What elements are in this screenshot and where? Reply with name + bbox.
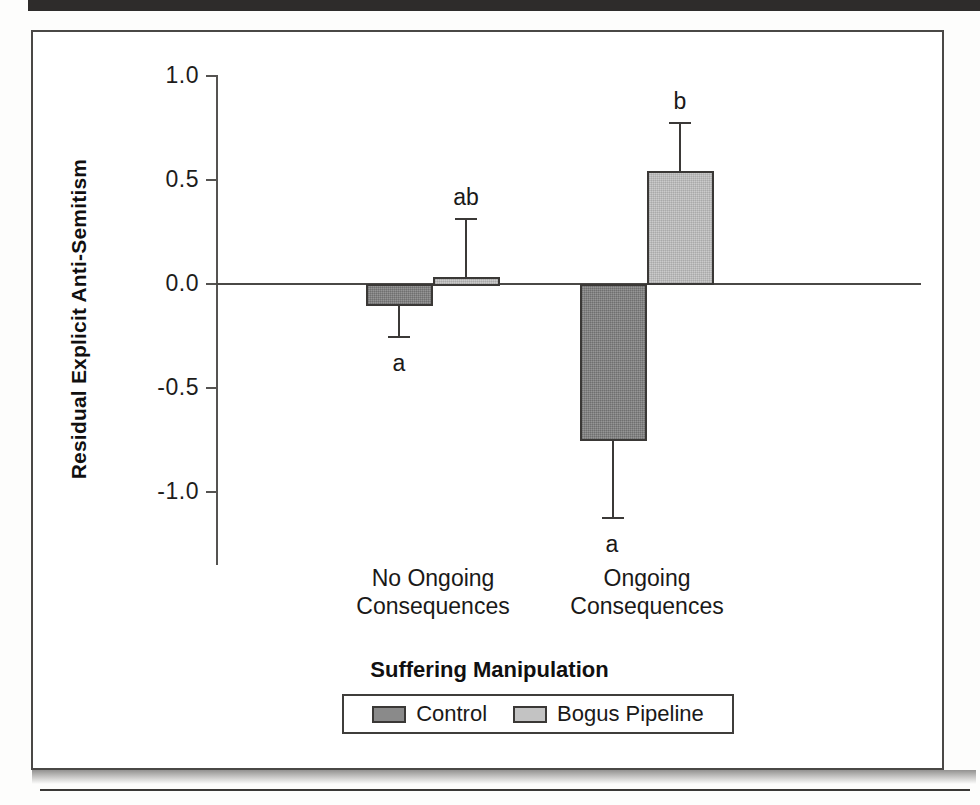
sig-letter-control-no-ongoing: a bbox=[369, 350, 429, 377]
y-tick-label-3: 0.0 bbox=[125, 270, 199, 297]
x-axis-title: Suffering Manipulation bbox=[33, 657, 946, 683]
legend: Control Bogus Pipeline bbox=[342, 694, 734, 734]
legend-entry-bogus-pipeline: Bogus Pipeline bbox=[513, 701, 704, 727]
bar-bogus-no-ongoing bbox=[433, 277, 500, 286]
errorbar-cap-control-no-ongoing bbox=[388, 336, 410, 338]
legend-swatch-control bbox=[372, 706, 406, 723]
legend-label-control: Control bbox=[416, 701, 487, 727]
errorbar-stem-control-no-ongoing bbox=[398, 306, 400, 337]
y-tick-label-4: -0.5 bbox=[125, 374, 199, 401]
scan-band-top bbox=[28, 0, 980, 11]
figure-page: 1.0 0.5 0.0 -0.5 -1.0 Residual Explicit … bbox=[0, 0, 980, 805]
zero-baseline bbox=[216, 283, 921, 285]
errorbar-stem-control-ongoing bbox=[612, 441, 614, 518]
errorbar-cap-bogus-ongoing bbox=[669, 122, 691, 124]
y-tick-label-1: 1.0 bbox=[125, 62, 199, 89]
bar-bogus-ongoing bbox=[647, 171, 714, 285]
y-tick-label-2: 0.5 bbox=[125, 166, 199, 193]
legend-entry-control: Control bbox=[372, 701, 487, 727]
group-label-ongoing: Ongoing Consequences bbox=[507, 565, 787, 620]
group-label-ongoing-line1: Ongoing bbox=[507, 565, 787, 593]
legend-swatch-bogus-pipeline bbox=[513, 706, 547, 723]
plot-area: 1.0 0.5 0.0 -0.5 -1.0 Residual Explicit … bbox=[33, 32, 946, 772]
y-tick-1 bbox=[206, 75, 217, 77]
bar-control-no-ongoing bbox=[366, 284, 433, 306]
errorbar-stem-bogus-ongoing bbox=[679, 123, 681, 172]
errorbar-stem-bogus-no-ongoing bbox=[465, 219, 467, 278]
group-label-ongoing-line2: Consequences bbox=[507, 593, 787, 621]
y-tick-4 bbox=[206, 387, 217, 389]
y-axis-title: Residual Explicit Anti-Semitism bbox=[67, 104, 91, 534]
scan-shadow bbox=[32, 770, 976, 784]
sig-letter-bogus-no-ongoing: ab bbox=[436, 184, 496, 211]
errorbar-cap-control-ongoing bbox=[602, 517, 624, 519]
sig-letter-bogus-ongoing: b bbox=[650, 88, 710, 115]
figure-frame: 1.0 0.5 0.0 -0.5 -1.0 Residual Explicit … bbox=[31, 30, 944, 770]
legend-label-bogus-pipeline: Bogus Pipeline bbox=[557, 701, 704, 727]
y-tick-2 bbox=[206, 179, 217, 181]
y-tick-5 bbox=[206, 491, 217, 493]
scan-rule-bottom bbox=[40, 789, 970, 791]
sig-letter-control-ongoing: a bbox=[582, 531, 642, 558]
y-tick-label-5: -1.0 bbox=[125, 478, 199, 505]
bar-control-ongoing bbox=[580, 284, 647, 441]
errorbar-cap-bogus-no-ongoing bbox=[455, 218, 477, 220]
